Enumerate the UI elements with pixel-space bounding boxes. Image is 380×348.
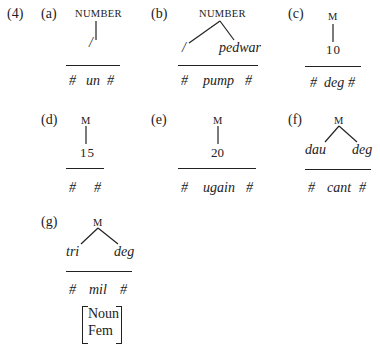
boundary-marker: #: [69, 180, 76, 196]
panel-label: (a): [41, 6, 57, 22]
boundary-marker: #: [69, 73, 76, 89]
boundary-marker: #: [359, 180, 366, 196]
root-node: M: [334, 115, 344, 126]
morpheme-form: deg: [324, 75, 344, 91]
boundary-marker: #: [120, 282, 127, 298]
panel-label: (b): [151, 6, 167, 22]
root-node: NUMBER: [199, 8, 246, 19]
root-node: M: [81, 115, 91, 126]
boundary-marker: #: [348, 75, 355, 91]
leaf-node: tri: [66, 244, 79, 260]
morpheme-form: mil: [89, 282, 107, 298]
boundary-marker: #: [245, 73, 252, 89]
boundary-marker: #: [181, 180, 188, 196]
leaf-node: dau: [305, 142, 326, 158]
morpheme-divider: [178, 65, 258, 66]
morpheme-divider: [305, 66, 361, 67]
boundary-marker: #: [94, 180, 101, 196]
morpheme-form: cant: [327, 180, 351, 196]
morpheme-divider: [66, 168, 104, 169]
morpheme-divider: [178, 168, 256, 169]
leaf-node: /: [89, 35, 93, 51]
morpheme-form: pump: [203, 73, 234, 89]
feature-fem: Fem: [88, 323, 113, 339]
panel-label: (f): [288, 112, 302, 128]
root-node: M: [93, 217, 103, 228]
leaf-node: 20: [211, 145, 224, 161]
boundary-marker: #: [69, 282, 76, 298]
morpheme-divider: [305, 169, 371, 170]
tree-branches: [0, 0, 380, 348]
leaf-node: 15: [80, 145, 95, 161]
panel-label: (d): [41, 112, 57, 128]
boundary-marker: #: [308, 180, 315, 196]
morpheme-divider: [66, 65, 120, 66]
panel-label: (c): [288, 6, 304, 22]
root-node: NUMBER: [75, 8, 122, 19]
root-node: M: [328, 11, 338, 22]
panel-label: (e): [151, 112, 167, 128]
boundary-marker: #: [107, 73, 114, 89]
leaf-node: pedwar: [219, 40, 261, 56]
boundary-marker: #: [181, 73, 188, 89]
boundary-marker: #: [310, 75, 317, 91]
feature-noun: Noun: [88, 306, 119, 322]
example-number: (4): [7, 6, 23, 22]
leaf-node: /: [182, 40, 186, 56]
boundary-marker: #: [246, 180, 253, 196]
morpheme-form: un: [86, 73, 100, 89]
panel-label: (g): [41, 214, 57, 230]
root-node: M: [213, 115, 223, 126]
leaf-node: deg: [114, 244, 134, 260]
leaf-node: 10: [326, 42, 341, 58]
morpheme-divider: [66, 271, 132, 272]
leaf-node: deg: [352, 142, 372, 158]
morpheme-form: ugain: [203, 180, 235, 196]
